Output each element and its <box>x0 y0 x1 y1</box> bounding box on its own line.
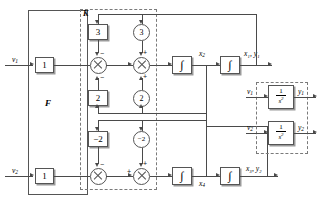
sum-junction-top-left <box>90 57 107 74</box>
plant-tf-bottom: 1 s2 <box>268 121 294 145</box>
arrow-sum-br-in <box>128 173 132 177</box>
k-gain-3-value: 3 <box>96 28 101 37</box>
arrow-kgain2-up <box>95 76 99 80</box>
integrator-2-symbol: ∫ <box>228 59 231 71</box>
arrow-fb-cgain3 <box>139 20 143 24</box>
k-gain-2-value: 2 <box>96 94 101 103</box>
signal-x2-label: x2 <box>199 50 205 59</box>
wire-fb-x2-down <box>206 65 207 120</box>
integrator-4-symbol: ∫ <box>228 170 231 182</box>
arrow-fb-cgain2 <box>139 104 143 108</box>
plant-tf-top: 1 s2 <box>268 85 294 109</box>
plant-in-v2-label: v2 <box>247 124 253 133</box>
integrator-1-symbol: ∫ <box>180 59 183 71</box>
k-gain-minus2-top: −2 <box>88 131 108 147</box>
arrow-fb-kgain2 <box>95 104 99 108</box>
sum-junction-top-right <box>133 57 150 74</box>
wire-fb-x1-up <box>256 14 257 65</box>
plant-tf-top-numerator: 1 <box>276 88 285 96</box>
plant-out-y1-label: y1 <box>298 88 304 97</box>
arrow-plant-out-bottom <box>313 130 317 134</box>
integrator-3-symbol: ∫ <box>180 170 183 182</box>
arrow-out-x3y2 <box>274 173 278 177</box>
block-diagram-canvas: F K v1 1 v2 1 3 2 −2 3 2 −2 − − + + <box>0 0 322 213</box>
arrow-cgain3-down <box>139 52 143 56</box>
c-gain-3-value: 3 <box>140 29 144 37</box>
input-v1-label: v1 <box>12 56 18 65</box>
output-x3-y2-label: x₃, y₂ <box>246 165 262 173</box>
c-gain-2-value: 2 <box>140 95 144 103</box>
plant-tf-top-denominator: s2 <box>276 96 285 106</box>
arrow-plant-out-top <box>313 94 317 98</box>
wire-fgain-bottom-out <box>54 176 90 177</box>
plant-tf-bottom-expression: 1 s2 <box>276 124 285 142</box>
f-gain-bottom: 1 <box>35 168 54 184</box>
f-subsystem-label: F <box>45 99 51 108</box>
plant-tf-top-expression: 1 s2 <box>276 88 285 106</box>
k-gain-3: 3 <box>88 24 108 40</box>
wire-kgainm2-down <box>98 147 99 164</box>
sign-minus-tl-bottom: − <box>100 74 104 81</box>
wire-fgain-top-out <box>54 65 90 66</box>
wire-cgainm2-down <box>142 148 143 164</box>
wire-v2-in <box>5 176 33 177</box>
wire-fb-mid-bus-lower <box>98 113 206 114</box>
f-gain-bottom-value: 1 <box>42 172 47 181</box>
k-subsystem-label: K <box>83 10 88 18</box>
arrow-fb-kgain3 <box>95 20 99 24</box>
wire-fb-mid-bus-upper <box>98 120 207 121</box>
c-gain-minus2: −2 <box>133 131 150 148</box>
output-x1-y1-label: x₁, y₁ <box>244 50 260 58</box>
integrator-1: ∫ <box>172 56 192 74</box>
wire-int4-out <box>240 176 278 177</box>
f-gain-top: 1 <box>35 57 54 73</box>
sum-junction-bottom-left <box>90 168 107 185</box>
arrow-out-x1y1 <box>268 62 272 66</box>
wire-v1-in <box>5 65 33 66</box>
integrator-2: ∫ <box>220 56 240 74</box>
sign-plus-br-top: + <box>143 160 147 167</box>
arrow-fb-kgainm2 <box>95 127 99 131</box>
c-gain-3: 3 <box>133 24 150 41</box>
wire-fb-x4-up <box>206 113 207 176</box>
sign-plus-tr-bottom: + <box>143 73 147 80</box>
arrow-kgain3-down <box>95 52 99 56</box>
plant-tf-bottom-numerator: 1 <box>276 124 285 132</box>
arrow-v1-in <box>30 62 34 66</box>
integrator-3: ∫ <box>172 167 192 185</box>
integrator-4: ∫ <box>220 167 240 185</box>
arrow-v2-in <box>30 173 34 177</box>
f-gain-top-value: 1 <box>42 61 47 70</box>
input-v2-label: v2 <box>12 167 18 176</box>
plant-tf-bottom-denominator: s2 <box>276 132 285 142</box>
sign-minus-bl-top: − <box>100 161 104 168</box>
signal-x4-label: x4 <box>199 180 205 189</box>
sign-minus-tl-top: − <box>100 50 104 57</box>
k-gain-minus2-top-value: −2 <box>93 135 103 144</box>
sign-plus-tr-top: + <box>143 49 147 56</box>
arrow-cgainm2-down <box>139 163 143 167</box>
arrow-cgain2-up <box>139 76 143 80</box>
wire-fb-top-bus <box>98 14 257 15</box>
c-gain-minus2-value: −2 <box>138 136 145 143</box>
plant-in-v1-label: v1 <box>247 88 253 97</box>
arrow-fb-cgainm2 <box>139 127 143 131</box>
plant-out-y2-label: y2 <box>298 124 304 133</box>
arrow-sum-tr-in <box>128 62 132 66</box>
arrow-kgainm2-down <box>95 163 99 167</box>
sum-junction-bottom-right <box>133 168 150 185</box>
